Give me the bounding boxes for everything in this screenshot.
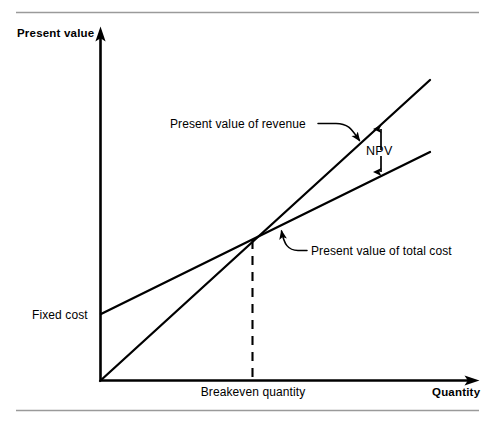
revenue-annotation-label: Present value of revenue bbox=[170, 117, 306, 131]
revenue-label-leader bbox=[318, 124, 360, 141]
npv-annotation-label: NPV bbox=[366, 144, 393, 158]
x-axis-label: Quantity bbox=[432, 386, 481, 398]
breakeven-npv-figure: Present value Quantity Present value of … bbox=[0, 0, 498, 423]
y-axis-label: Present value bbox=[17, 27, 94, 39]
fixed-cost-annotation-label: Fixed cost bbox=[32, 308, 88, 322]
total-cost-label-leader bbox=[282, 231, 308, 251]
present-value-of-total-cost-line bbox=[101, 152, 430, 314]
breakeven-quantity-label: Breakeven quantity bbox=[201, 385, 306, 399]
total-cost-annotation-label: Present value of total cost bbox=[311, 244, 452, 258]
